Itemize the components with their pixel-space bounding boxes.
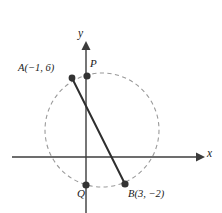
segment-ab [72,78,125,184]
point-p [83,72,90,79]
point-label-q: Q [77,188,85,199]
diagram-canvas [0,0,222,213]
point-a [69,75,76,82]
y-axis-arrowhead [82,41,91,50]
point-label-b: B(3, −2) [128,189,164,200]
x-axis-label: x [207,148,212,160]
y-axis-label: y [78,28,83,40]
point-b [121,180,128,187]
point-label-a: A(−1, 6) [18,63,54,74]
figure-container: y x P Q A(−1, 6) B(3, −2) [0,0,222,213]
dashed-circle [45,73,159,187]
point-label-p: P [90,58,97,69]
x-axis-arrowhead [196,153,205,162]
